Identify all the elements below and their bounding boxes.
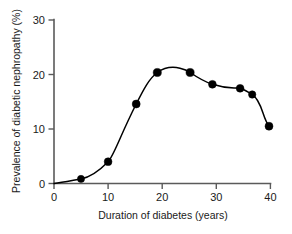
- chart-figure: 0 10 20 30 0 10 20 30 40 Duration of dia…: [0, 0, 292, 234]
- x-tick-label-20: 20: [156, 191, 168, 203]
- data-point-marker: [249, 91, 256, 98]
- x-tick-label-30: 30: [210, 191, 222, 203]
- prevalence-curve: [54, 67, 269, 183]
- data-point-marker: [77, 175, 84, 182]
- x-axis-title: Duration of diabetes (years): [98, 209, 228, 221]
- y-tick-label-30: 30: [33, 14, 45, 26]
- data-point-marker: [209, 80, 217, 88]
- x-tick-label-40: 40: [264, 191, 276, 203]
- data-point-marker: [265, 122, 273, 130]
- data-point-marker: [236, 84, 244, 92]
- data-point-marker: [186, 68, 194, 76]
- y-tick-label-10: 10: [33, 123, 45, 135]
- data-point-marker: [104, 158, 112, 166]
- y-axis-title: Prevalence of diabetic nephropathy (%): [10, 9, 22, 193]
- data-point-marker: [132, 100, 140, 108]
- y-tick-label-20: 20: [33, 69, 45, 81]
- x-tick-label-10: 10: [102, 191, 114, 203]
- data-point-marker: [153, 68, 161, 76]
- y-tick-label-0: 0: [39, 178, 45, 190]
- x-tick-label-0: 0: [51, 191, 57, 203]
- line-chart-canvas: 0 10 20 30 0 10 20 30 40 Duration of dia…: [0, 0, 292, 234]
